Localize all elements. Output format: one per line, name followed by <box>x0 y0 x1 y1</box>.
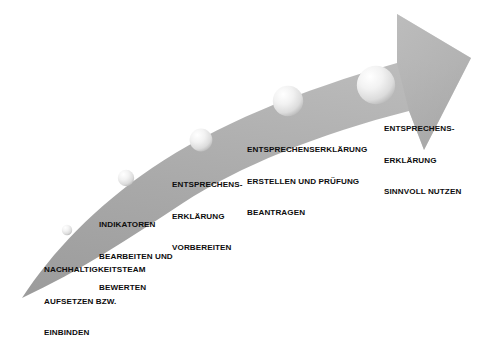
step-label-2: INDIKATOREN BEARBEITEN UND BEWERTEN <box>99 199 173 315</box>
sphere-4 <box>273 86 303 116</box>
step-label-3-line-3: VORBEREITEN <box>172 243 243 254</box>
step-label-5-line-3: SINNVOLL NUTZEN <box>384 187 461 198</box>
sphere-5 <box>357 66 395 104</box>
step-label-2-line-3: BEWERTEN <box>99 283 173 294</box>
step-label-4-line-1: ENTSPRECHENSERKLÄRUNG <box>247 145 367 156</box>
step-label-3: ENTSPRECHENS- ERKLÄRUNG VORBEREITEN <box>172 159 243 275</box>
step-label-2-line-2: BEARBEITEN UND <box>99 252 173 263</box>
step-label-4: ENTSPRECHENSERKLÄRUNG ERSTELLEN UND PRÜF… <box>247 124 367 240</box>
step-label-4-line-2: ERSTELLEN UND PRÜFUNG <box>247 177 367 188</box>
sphere-3 <box>190 129 213 152</box>
step-label-2-line-1: INDIKATOREN <box>99 220 173 231</box>
step-label-5-line-2: ERKLÄRUNG <box>384 156 461 167</box>
step-label-5-line-1: ENTSPRECHENS- <box>384 124 461 135</box>
step-label-5: ENTSPRECHENS- ERKLÄRUNG SINNVOLL NUTZEN <box>384 103 461 219</box>
step-label-3-line-1: ENTSPRECHENS- <box>172 180 243 191</box>
sphere-2 <box>118 170 134 186</box>
step-label-1-line-3: EINBINDEN <box>44 328 146 339</box>
sphere-1 <box>62 225 72 235</box>
step-label-3-line-2: ERKLÄRUNG <box>172 212 243 223</box>
step-label-4-line-3: BEANTRAGEN <box>247 208 367 219</box>
